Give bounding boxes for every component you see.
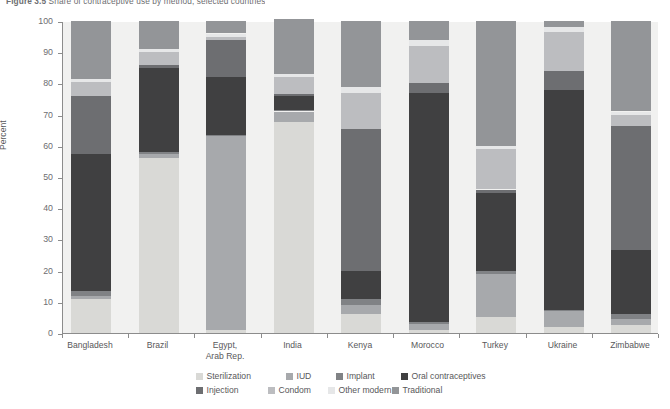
stacked-bar[interactable]	[71, 22, 111, 333]
bar-segment[interactable]	[206, 330, 246, 333]
bar-segment[interactable]	[139, 152, 179, 154]
legend-item-oral-contraceptives[interactable]: Oral contraceptives	[401, 370, 486, 383]
bar-segment[interactable]	[544, 21, 584, 27]
stacked-bar[interactable]	[139, 22, 179, 333]
bar-segment[interactable]	[409, 46, 449, 83]
bar-group[interactable]	[544, 22, 584, 333]
bar-segment[interactable]	[476, 149, 516, 190]
legend-item-condom[interactable]: Condom	[268, 384, 311, 397]
bar-segment[interactable]	[71, 82, 111, 96]
bar-segment[interactable]	[206, 21, 246, 33]
bar-segment[interactable]	[274, 110, 314, 112]
stacked-bar[interactable]	[206, 22, 246, 333]
bar-group[interactable]	[476, 22, 516, 333]
bar-segment[interactable]	[139, 154, 179, 159]
bar-segment[interactable]	[274, 112, 314, 123]
bar-segment[interactable]	[544, 27, 584, 32]
legend-item-traditional[interactable]: Traditional	[392, 384, 442, 397]
bar-segment[interactable]	[71, 79, 111, 82]
bar-segment[interactable]	[206, 37, 246, 40]
bar-segment[interactable]	[544, 90, 584, 310]
legend-item-implant[interactable]: Implant	[336, 370, 375, 383]
bar-segment[interactable]	[341, 314, 381, 333]
bar-segment[interactable]	[71, 296, 111, 299]
legend-item-other-modern[interactable]: Other modern	[328, 384, 392, 397]
bar-segment[interactable]	[611, 250, 651, 314]
bar-segment[interactable]	[611, 21, 651, 111]
bar-segment[interactable]	[544, 71, 584, 90]
bar-segment[interactable]	[341, 129, 381, 271]
bar-segment[interactable]	[139, 52, 179, 64]
bar-segment[interactable]	[139, 65, 179, 68]
bar-segment[interactable]	[476, 274, 516, 318]
bar-segment[interactable]	[409, 324, 449, 330]
bar-segment[interactable]	[409, 21, 449, 40]
legend-item-injection[interactable]: Injection	[196, 384, 239, 397]
bar-segment[interactable]	[544, 311, 584, 327]
bar-segment[interactable]	[341, 305, 381, 314]
bar-segment[interactable]	[476, 317, 516, 333]
bar-segment[interactable]	[274, 74, 314, 77]
stacked-bar[interactable]	[544, 22, 584, 333]
bar-segment[interactable]	[341, 299, 381, 305]
bar-segment[interactable]	[206, 40, 246, 77]
bar-segment[interactable]	[341, 87, 381, 93]
bar-segment[interactable]	[544, 310, 584, 312]
legend-item-iud[interactable]: IUD	[286, 370, 311, 383]
bar-segment[interactable]	[71, 154, 111, 291]
bar-segment[interactable]	[611, 112, 651, 115]
bar-segment[interactable]	[206, 77, 246, 135]
bar-segment[interactable]	[476, 193, 516, 271]
bar-group[interactable]	[139, 22, 179, 333]
bar-segment[interactable]	[139, 21, 179, 49]
bar-segment[interactable]	[274, 94, 314, 96]
bar-segment[interactable]	[274, 96, 314, 110]
bar-segment[interactable]	[611, 314, 651, 319]
bar-group[interactable]	[71, 22, 111, 333]
bar-segment[interactable]	[409, 83, 449, 92]
bar-segment[interactable]	[409, 322, 449, 324]
stacked-bar[interactable]	[274, 22, 314, 333]
bar-segment[interactable]	[341, 271, 381, 299]
bar-group[interactable]	[611, 22, 651, 333]
bar-group[interactable]	[341, 22, 381, 333]
bar-group[interactable]	[409, 22, 449, 333]
bar-segment[interactable]	[274, 77, 314, 94]
bar-segment[interactable]	[206, 135, 246, 137]
bar-segment[interactable]	[544, 32, 584, 71]
bar-segment[interactable]	[544, 327, 584, 333]
bar-segment[interactable]	[409, 330, 449, 333]
stacked-bar[interactable]	[341, 22, 381, 333]
bar-segment[interactable]	[611, 319, 651, 325]
bar-segment[interactable]	[139, 49, 179, 52]
stacked-bar[interactable]	[476, 22, 516, 333]
bar-segment[interactable]	[611, 115, 651, 126]
bar-group[interactable]	[274, 22, 314, 333]
bar-segment[interactable]	[206, 34, 246, 37]
bar-group[interactable]	[206, 22, 246, 333]
bar-segment[interactable]	[476, 271, 516, 274]
bar-segment[interactable]	[139, 158, 179, 333]
y-tick-label: 40	[43, 203, 53, 213]
bar-segment[interactable]	[71, 291, 111, 296]
bar-segment[interactable]	[274, 19, 314, 74]
bar-segment[interactable]	[71, 21, 111, 79]
bar-segment[interactable]	[476, 146, 516, 149]
bar-segment[interactable]	[206, 136, 246, 329]
bar-segment[interactable]	[71, 299, 111, 333]
x-tick-mark	[261, 334, 262, 338]
bar-segment[interactable]	[71, 96, 111, 154]
stacked-bar[interactable]	[611, 22, 651, 333]
bar-segment[interactable]	[274, 122, 314, 333]
legend-item-sterilization[interactable]: Sterilization	[196, 370, 251, 383]
bar-segment[interactable]	[341, 21, 381, 87]
bar-segment[interactable]	[476, 21, 516, 146]
bar-segment[interactable]	[409, 40, 449, 46]
bar-segment[interactable]	[611, 126, 651, 251]
bar-segment[interactable]	[139, 68, 179, 152]
bar-segment[interactable]	[476, 190, 516, 193]
bar-segment[interactable]	[409, 93, 449, 322]
bar-segment[interactable]	[341, 93, 381, 129]
stacked-bar[interactable]	[409, 22, 449, 333]
bar-segment[interactable]	[611, 325, 651, 333]
